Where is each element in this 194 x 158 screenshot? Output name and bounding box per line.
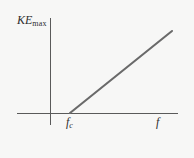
x-axis-label: f: [156, 116, 159, 128]
photoelectric-effect-figure: KEmax fc f: [0, 0, 194, 158]
kinetic-energy-trend-line: [70, 31, 172, 113]
threshold-frequency-label: fc: [66, 116, 73, 130]
threshold-frequency-subscript: c: [69, 121, 73, 130]
y-axis-variable: KE: [17, 13, 32, 27]
x-axis-variable: f: [156, 115, 159, 129]
y-axis-label: KEmax: [17, 14, 47, 28]
y-axis-subscript: max: [32, 19, 46, 28]
